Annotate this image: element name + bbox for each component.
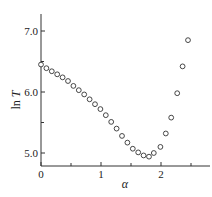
scatter-chart: 5.06.07.0012 α ln T bbox=[0, 0, 212, 197]
data-point bbox=[136, 150, 141, 155]
data-point bbox=[180, 64, 185, 69]
data-point bbox=[114, 126, 119, 131]
y-tick-label: 5.0 bbox=[24, 147, 38, 159]
x-axis-label: α bbox=[122, 177, 129, 191]
x-tick-label: 1 bbox=[98, 168, 104, 180]
data-point bbox=[109, 119, 114, 124]
data-point bbox=[49, 69, 54, 74]
data-point bbox=[76, 88, 81, 93]
data-point bbox=[66, 79, 71, 84]
data-point bbox=[147, 154, 152, 159]
data-point bbox=[125, 140, 130, 145]
data-point bbox=[151, 151, 156, 156]
y-tick-label: 7.0 bbox=[24, 25, 38, 37]
y-axis-label-prefix: ln bbox=[9, 97, 23, 109]
data-point bbox=[93, 102, 98, 107]
data-point bbox=[60, 75, 65, 80]
data-point bbox=[175, 91, 180, 96]
data-point bbox=[141, 153, 146, 158]
data-point bbox=[120, 134, 125, 139]
data-points bbox=[39, 38, 191, 159]
svg-text:ln T: ln T bbox=[9, 89, 23, 109]
y-tick-label: 6.0 bbox=[24, 86, 38, 98]
x-tick-label: 2 bbox=[158, 168, 164, 180]
data-point bbox=[82, 92, 87, 97]
data-point bbox=[44, 66, 49, 71]
data-point bbox=[158, 145, 163, 150]
axes: 5.06.07.0012 bbox=[24, 14, 210, 180]
y-axis-label: ln T bbox=[9, 89, 23, 109]
data-point bbox=[98, 107, 103, 112]
y-axis-label-var: T bbox=[9, 89, 23, 97]
data-point bbox=[163, 131, 168, 136]
data-point bbox=[39, 62, 44, 67]
data-point bbox=[186, 38, 191, 43]
x-tick-label: 0 bbox=[38, 168, 44, 180]
data-point bbox=[130, 146, 135, 151]
data-point bbox=[103, 113, 108, 118]
data-point bbox=[71, 84, 76, 89]
data-point bbox=[169, 115, 174, 120]
data-point bbox=[87, 97, 92, 102]
data-point bbox=[55, 72, 60, 77]
